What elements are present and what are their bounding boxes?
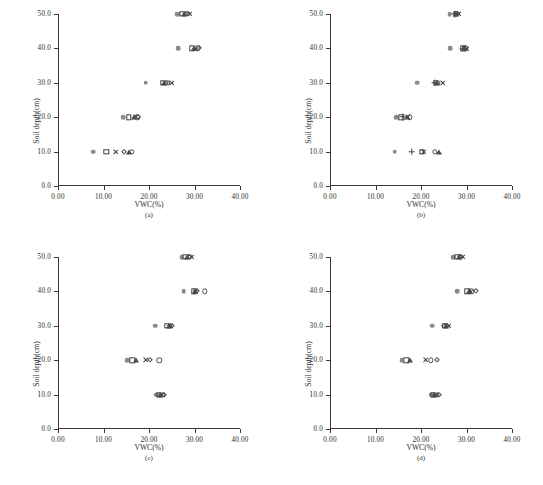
- data-point-filled-circle: [176, 46, 181, 51]
- y-axis-tick-label: 30.0: [38, 79, 51, 87]
- panel-b: 0.010.020.030.040.050.00.0010.0020.0030.…: [272, 0, 543, 242]
- y-axis-tick-label: 50.0: [310, 10, 323, 18]
- x-axis-tick: [467, 429, 468, 433]
- x-axis-tick: [195, 186, 196, 190]
- y-axis-tick: [54, 395, 58, 396]
- x-axis-tick: [330, 429, 331, 433]
- y-axis-tick: [326, 83, 330, 84]
- y-axis-tick-label: 40.0: [310, 287, 323, 295]
- x-axis-tick: [467, 186, 468, 190]
- y-axis-tick-label: 30.0: [310, 79, 323, 87]
- data-point-filled-triangle: [133, 358, 139, 363]
- data-point-open-circle: [428, 357, 433, 362]
- y-axis-title: Soil depth(cm): [304, 341, 313, 386]
- y-axis-tick: [54, 257, 58, 258]
- data-point-filled-circle: [415, 81, 420, 86]
- y-axis-tick-label: 10.0: [310, 391, 323, 399]
- y-axis-tick: [326, 117, 330, 118]
- data-point-open-square: [104, 149, 109, 154]
- data-point-filled-triangle: [461, 46, 467, 51]
- plot-area: 0.010.020.030.040.050.00.0010.0020.0030.…: [58, 14, 240, 186]
- y-axis-line: [330, 14, 331, 186]
- x-axis-tick: [421, 429, 422, 433]
- y-axis-tick-label: 50.0: [38, 253, 51, 261]
- x-axis-title: VWC(%): [58, 200, 240, 209]
- x-axis-tick: [330, 186, 331, 190]
- data-point-filled-circle: [455, 289, 460, 294]
- y-axis-tick: [326, 152, 330, 153]
- y-axis-tick-label: 0.0: [313, 182, 323, 190]
- y-axis-tick: [326, 360, 330, 361]
- y-axis-tick: [54, 117, 58, 118]
- x-axis-title: VWC(%): [330, 443, 512, 452]
- data-point-filled-triangle: [453, 12, 459, 17]
- data-point-filled-triangle: [404, 115, 410, 120]
- data-point-filled-circle: [91, 149, 96, 154]
- y-axis-title: Soil depth(cm): [32, 98, 41, 143]
- y-axis-tick: [326, 257, 330, 258]
- y-axis-tick: [54, 14, 58, 15]
- panel-label: (c): [58, 454, 240, 462]
- figure-four-panel-scatter: 0.010.020.030.040.050.00.0010.0020.0030.…: [0, 0, 543, 485]
- y-axis-tick: [326, 291, 330, 292]
- data-point-filled-circle: [392, 149, 397, 154]
- y-axis-tick: [54, 48, 58, 49]
- data-point-open-circle: [202, 289, 207, 294]
- panel-c: 0.010.020.030.040.050.00.0010.0020.0030.…: [0, 243, 271, 485]
- y-axis-line: [58, 14, 59, 186]
- y-axis-tick-label: 0.0: [41, 182, 51, 190]
- y-axis-tick-label: 0.0: [41, 425, 51, 433]
- plot-area: 0.010.020.030.040.050.00.0010.0020.0030.…: [58, 257, 240, 429]
- y-axis-tick: [326, 14, 330, 15]
- data-point-cross: [421, 148, 427, 154]
- y-axis-tick: [54, 326, 58, 327]
- y-axis-tick: [54, 291, 58, 292]
- x-axis-tick: [240, 429, 241, 433]
- x-axis-tick: [104, 429, 105, 433]
- data-point-filled-circle: [153, 324, 158, 329]
- x-axis-tick: [58, 429, 59, 433]
- data-point-filled-circle: [181, 289, 186, 294]
- panel-label: (d): [330, 454, 512, 462]
- y-axis-line: [330, 257, 331, 429]
- panel-d: 0.010.020.030.040.050.00.0010.0020.0030.…: [272, 243, 543, 485]
- y-axis-tick-label: 10.0: [38, 148, 51, 156]
- data-point-filled-circle: [121, 115, 126, 120]
- x-axis-title: VWC(%): [58, 443, 240, 452]
- data-point-filled-triangle: [407, 358, 413, 363]
- y-axis-title: Soil depth(cm): [304, 98, 313, 143]
- y-axis-tick: [326, 395, 330, 396]
- data-point-cross: [440, 80, 446, 86]
- panel-label: (b): [330, 211, 512, 219]
- y-axis-tick-label: 30.0: [38, 322, 51, 330]
- y-axis-tick-label: 40.0: [38, 44, 51, 52]
- y-axis-tick-label: 50.0: [310, 253, 323, 261]
- x-axis-tick: [512, 429, 513, 433]
- data-point-open-square: [399, 114, 404, 119]
- y-axis-title: Soil depth(cm): [32, 341, 41, 386]
- x-axis-tick: [421, 186, 422, 190]
- x-axis-tick: [240, 186, 241, 190]
- y-axis-tick-label: 40.0: [38, 287, 51, 295]
- x-axis-tick: [104, 186, 105, 190]
- x-axis-tick: [149, 186, 150, 190]
- x-axis-tick: [376, 186, 377, 190]
- y-axis-tick: [54, 152, 58, 153]
- x-axis-tick: [376, 429, 377, 433]
- x-axis-tick: [58, 186, 59, 190]
- x-axis-title: VWC(%): [330, 200, 512, 209]
- data-point-open-diamond: [434, 357, 440, 363]
- plot-area: 0.010.020.030.040.050.00.0010.0020.0030.…: [330, 257, 512, 429]
- y-axis-tick-label: 30.0: [310, 322, 323, 330]
- data-point-filled-circle: [144, 81, 149, 86]
- data-point-filled-circle: [394, 115, 399, 120]
- data-point-plus: [409, 148, 415, 154]
- data-point-filled-circle: [448, 46, 453, 51]
- y-axis-tick-label: 0.0: [313, 425, 323, 433]
- data-point-cross: [112, 148, 118, 154]
- x-axis-tick: [512, 186, 513, 190]
- plot-area: 0.010.020.030.040.050.00.0010.0020.0030.…: [330, 14, 512, 186]
- y-axis-line: [58, 257, 59, 429]
- y-axis-tick: [326, 326, 330, 327]
- y-axis-tick-label: 10.0: [310, 148, 323, 156]
